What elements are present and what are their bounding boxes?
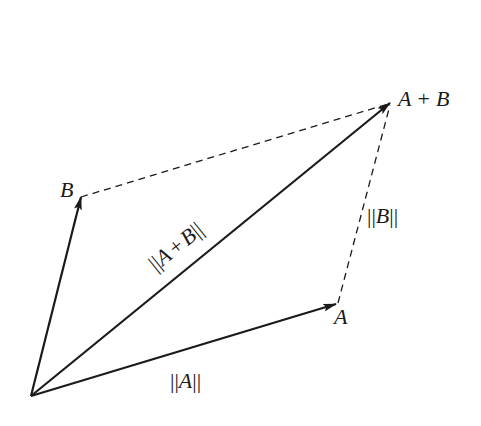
dashed-edge-b-to-sum xyxy=(81,104,388,197)
label-b-tip: B xyxy=(60,177,73,202)
vector-b-arrow xyxy=(31,197,81,396)
vector-addition-diagram: A+B B A ||A|| ||B|| ||A+B|| xyxy=(0,0,481,426)
vector-sum-arrow xyxy=(31,103,390,396)
label-norm-a: ||A|| xyxy=(170,368,201,393)
label-norm-sum: ||A+B|| xyxy=(143,217,208,276)
label-sum-tip: A+B xyxy=(396,86,449,111)
label-norm-b: ||B|| xyxy=(367,203,398,228)
label-a-tip: A xyxy=(332,304,348,329)
